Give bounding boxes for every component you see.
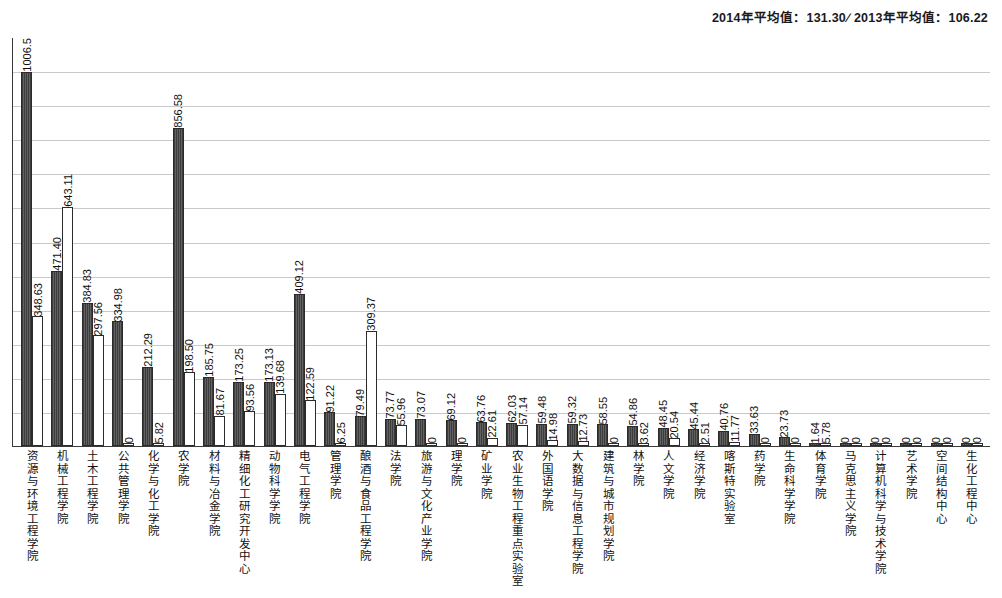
bar-2013[interactable]: 198.50	[184, 372, 195, 446]
category-label: 资源与环境工程学院	[25, 450, 37, 563]
bar-2013[interactable]: 0	[426, 443, 437, 446]
bar-2014[interactable]: 45.44	[688, 429, 699, 446]
bar-2013[interactable]: 0	[457, 443, 468, 446]
bar-value-text: 212.29	[142, 333, 153, 367]
bar-2013[interactable]: 348.63	[32, 316, 43, 446]
bar-value-text: 856.58	[173, 94, 184, 128]
category-label: 机械工程学院	[55, 450, 67, 525]
bar-2013[interactable]: 0	[608, 443, 619, 446]
bar-value-label: 81.67	[214, 388, 225, 416]
category-label: 管理学院	[328, 450, 340, 500]
bar-2013[interactable]: 11.77	[729, 442, 740, 446]
bar-2013[interactable]: 0	[942, 443, 953, 446]
bar-2013[interactable]: 5.78	[820, 443, 831, 446]
bar-2014[interactable]: 334.98	[112, 321, 123, 446]
category-label: 法学院	[389, 450, 401, 488]
bar-value-text: 20.54	[669, 411, 680, 439]
bar-2014[interactable]: 62.03	[506, 423, 517, 446]
bar-2013[interactable]: 14.98	[547, 440, 558, 446]
bar-value-label: 185.75	[203, 343, 214, 377]
bar-value-text: 14.98	[547, 413, 558, 441]
bar-2013[interactable]: 20.54	[669, 438, 680, 446]
bar-2014[interactable]: 471.40	[51, 271, 62, 446]
bar-2013[interactable]: 297.56	[93, 335, 104, 446]
bar-value-label: 22.61	[487, 410, 498, 438]
bar-2014[interactable]: 0	[961, 443, 972, 446]
bar-value-label: 0	[881, 437, 892, 443]
category-label: 材料与冶金学院	[207, 450, 219, 538]
bar-2013[interactable]: 139.68	[275, 394, 286, 446]
category-label: 土木工程学院	[86, 450, 98, 525]
bar-2014[interactable]: 0	[870, 443, 881, 446]
bar-2013[interactable]: 55.96	[396, 425, 407, 446]
bar-group: 00	[926, 38, 956, 446]
bar-2013[interactable]: 3.62	[638, 443, 649, 446]
bar-2014[interactable]: 0	[931, 443, 942, 446]
bar-value-text: 1006.5	[21, 38, 32, 72]
bar-value-text: 91.22	[324, 385, 335, 413]
bar-value-text: 0	[760, 437, 771, 443]
bar-value-label: 0	[942, 437, 953, 443]
bar-value-text: 643.11	[62, 174, 73, 207]
bar-2013[interactable]: 0	[881, 443, 892, 446]
bar-2014[interactable]: 1.64	[809, 443, 820, 446]
bar-value-text: 3.62	[638, 422, 649, 443]
bar-value-label: 139.68	[275, 360, 286, 394]
bar-2013[interactable]: 57.14	[517, 425, 528, 446]
bar-group: 173.13139.68	[260, 38, 290, 446]
bar-value-label: 93.56	[244, 384, 255, 412]
bar-2014[interactable]: 0	[840, 443, 851, 446]
bar-2013[interactable]: 93.56	[244, 411, 255, 446]
bar-value-label: 58.55	[597, 397, 608, 425]
bar-2013[interactable]: 0	[760, 443, 771, 446]
bar-2013[interactable]: 0	[123, 443, 134, 446]
bar-value-text: 409.12	[294, 260, 305, 294]
category-label: 生化工程中心	[965, 450, 977, 525]
bar-value-text: 0	[851, 437, 862, 443]
bar-value-text: 297.56	[93, 302, 104, 336]
bar-group: 58.550	[593, 38, 623, 446]
bar-value-text: 0	[123, 437, 134, 443]
bar-value-label: 198.50	[184, 339, 195, 373]
bar-2013[interactable]: 309.37	[366, 331, 377, 446]
bar-group: 856.58198.50	[169, 38, 199, 446]
category-label: 化学与化工学院	[146, 450, 158, 538]
bar-group: 69.120	[441, 38, 471, 446]
bar-2013[interactable]: 122.59	[305, 400, 316, 446]
bar-2013[interactable]: 12.73	[578, 441, 589, 446]
bar-2014[interactable]: 856.58	[173, 128, 184, 446]
bar-value-label: 91.22	[324, 385, 335, 413]
bar-value-text: 69.12	[446, 393, 457, 421]
bar-2013[interactable]: 0	[911, 443, 922, 446]
bar-value-text: 6.25	[335, 422, 346, 443]
bar-2013[interactable]: 0	[790, 443, 801, 446]
bar-value-text: 93.56	[244, 384, 255, 412]
bar-group: 212.295.82	[138, 38, 168, 446]
chart-page: 2014年平均值：131.30∕ 2013年平均值：106.22 1006.53…	[0, 0, 1002, 598]
bar-2014[interactable]: 185.75	[203, 377, 214, 446]
bar-2013[interactable]: 6.25	[335, 443, 346, 446]
bars-layer: 1006.5348.63471.40643.11384.83297.56334.…	[13, 38, 990, 446]
bar-2014[interactable]: 0	[900, 443, 911, 446]
bar-group: 73.070	[411, 38, 441, 446]
bar-2013[interactable]: 643.11	[62, 207, 73, 446]
bar-2013[interactable]: 5.82	[153, 443, 164, 446]
category-label: 动物科学学院	[268, 450, 280, 525]
category-label: 精细化工研究开发中心	[237, 450, 249, 575]
bar-2013[interactable]: 81.67	[214, 416, 225, 446]
mean-2014-text: 2014年平均值：131.30	[712, 11, 846, 25]
bar-2013[interactable]: 2.51	[699, 443, 710, 446]
bar-2014[interactable]: 58.55	[597, 424, 608, 446]
bar-2014[interactable]: 79.49	[355, 416, 366, 446]
bar-group: 63.7622.61	[472, 38, 502, 446]
category-label: 外国语学院	[540, 450, 552, 513]
bar-value-label: 384.83	[82, 269, 93, 303]
bar-value-label: 0	[608, 437, 619, 443]
category-axis-labels: 资源与环境工程学院机械工程学院土木工程学院公共管理学院化学与化工学院农学院材料与…	[12, 450, 990, 596]
bar-2014[interactable]: 1006.5	[21, 72, 32, 446]
bar-value-text: 0	[608, 437, 619, 443]
bar-value-text: 2.51	[699, 422, 710, 443]
bar-2013[interactable]: 22.61	[487, 438, 498, 446]
bar-2013[interactable]: 0	[972, 443, 983, 446]
bar-2013[interactable]: 0	[851, 443, 862, 446]
